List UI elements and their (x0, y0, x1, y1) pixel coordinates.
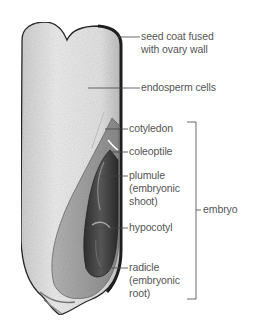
label-hypocotyl: hypocotyl (129, 221, 172, 234)
label-plumule: plumule (embryonic shoot) (129, 169, 180, 208)
embryo-bracket (187, 122, 201, 299)
label-endosperm: endosperm cells (141, 81, 216, 94)
label-radicle: radicle (embryonic root) (129, 261, 180, 300)
label-embryo: embryo (203, 203, 237, 216)
label-seed-coat: seed coat fused with ovary wall (141, 30, 214, 56)
label-coleoptile: coleoptile (129, 145, 172, 158)
label-cotyledon: cotyledon (129, 122, 173, 135)
